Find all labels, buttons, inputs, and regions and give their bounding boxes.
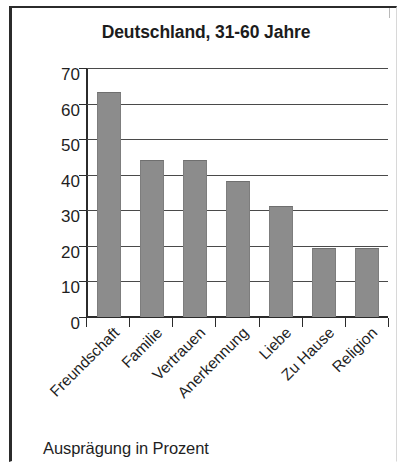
plot-area xyxy=(86,68,388,317)
bar xyxy=(140,160,164,318)
y-axis-tick-label: 30 xyxy=(61,208,80,225)
gridline xyxy=(86,104,388,105)
figure-frame: Deutschland, 31-60 Jahre 010203040506070… xyxy=(9,6,397,462)
y-axis-tick-label: 50 xyxy=(61,137,80,154)
y-axis-tick-label: 20 xyxy=(61,244,80,261)
gridline xyxy=(86,68,388,69)
y-axis-tick-label: 40 xyxy=(61,173,80,190)
bar xyxy=(312,248,336,317)
bar xyxy=(97,92,121,317)
bar xyxy=(269,206,293,317)
y-axis-tick-label: 70 xyxy=(61,66,80,83)
frame-right-rule xyxy=(389,8,390,18)
y-axis-tick-label: 0 xyxy=(71,315,80,332)
figure-caption: Ausprägung in Prozent xyxy=(43,439,209,458)
bar xyxy=(183,160,207,318)
bar xyxy=(226,181,250,317)
gridline xyxy=(86,139,388,140)
y-axis-tick-label: 60 xyxy=(61,102,80,119)
bar xyxy=(355,248,379,317)
x-axis-labels: FreundschaftFamilieVertrauenAnerkennungL… xyxy=(86,320,396,430)
y-axis-tick-label: 10 xyxy=(61,279,80,296)
gridline xyxy=(86,175,388,176)
